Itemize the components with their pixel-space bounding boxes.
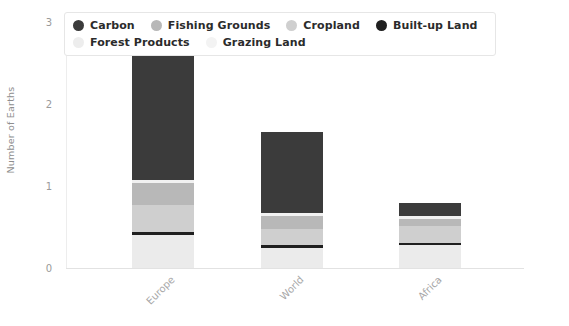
y-axis-tick-label: 0	[22, 263, 52, 274]
bar-europe[interactable]	[132, 50, 194, 268]
legend-swatch-icon	[376, 20, 387, 31]
bar-segment[interactable]	[261, 216, 323, 229]
y-axis-tick-label: 3	[22, 17, 52, 28]
bar-segment[interactable]	[399, 219, 461, 226]
bar-segment[interactable]	[261, 132, 323, 213]
legend-item-fishing-grounds[interactable]: Fishing Grounds	[151, 17, 271, 33]
bar-segment[interactable]	[132, 183, 194, 205]
legend-label: Grazing Land	[223, 36, 306, 49]
y-axis-title: Number of Earths	[5, 87, 16, 174]
legend-item-carbon[interactable]: Carbon	[73, 17, 135, 33]
legend-label: Forest Products	[90, 36, 190, 49]
bar-segment[interactable]	[132, 50, 194, 180]
legend-item-forest-products[interactable]: Forest Products	[73, 34, 190, 50]
legend-swatch-icon	[73, 20, 84, 31]
y-axis-ticks: 0123	[22, 0, 52, 326]
legend-swatch-icon	[73, 37, 84, 48]
legend-swatch-icon	[286, 20, 297, 31]
legend-swatch-icon	[206, 37, 217, 48]
bar-segment[interactable]	[399, 226, 461, 242]
legend-label: Built-up Land	[393, 19, 478, 32]
bar-segment[interactable]	[132, 205, 194, 232]
legend-label: Cropland	[303, 19, 360, 32]
legend-item-grazing-land[interactable]: Grazing Land	[206, 34, 306, 50]
bar-segment[interactable]	[261, 229, 323, 245]
y-axis-tick-label: 1	[22, 181, 52, 192]
legend-item-cropland[interactable]: Cropland	[286, 17, 360, 33]
y-axis-tick-label: 2	[22, 99, 52, 110]
legend-item-built-up-land[interactable]: Built-up Land	[376, 17, 478, 33]
legend-swatch-icon	[151, 20, 162, 31]
chart-legend: CarbonFishing GroundsCroplandBuilt-up La…	[64, 12, 496, 56]
legend-label: Carbon	[90, 19, 135, 32]
bar-segment[interactable]	[399, 203, 461, 216]
legend-label: Fishing Grounds	[168, 19, 271, 32]
plot-area	[66, 22, 524, 268]
bar-world[interactable]	[261, 132, 323, 268]
stacked-bar-chart: Number of Earths 0123 CarbonFishing Grou…	[0, 0, 569, 326]
